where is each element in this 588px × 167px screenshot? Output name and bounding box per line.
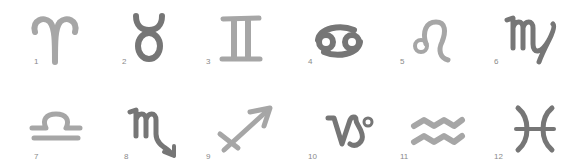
virgo-icon (505, 14, 563, 66)
sign-number-1: 1 (34, 57, 38, 66)
cancer-icon (312, 22, 366, 64)
leo-icon (412, 18, 454, 64)
taurus-icon (132, 12, 166, 64)
sign-number-8: 8 (124, 152, 128, 161)
libra-icon (30, 110, 82, 142)
sign-number-9: 9 (206, 152, 210, 161)
sign-number-7: 7 (34, 152, 38, 161)
sign-number-11: 11 (400, 152, 408, 161)
scorpio-icon (128, 106, 180, 158)
sign-number-4: 4 (308, 57, 312, 66)
sign-number-3: 3 (206, 57, 210, 66)
sign-number-6: 6 (494, 57, 498, 66)
pisces-icon (512, 104, 558, 154)
capricorn-icon (326, 114, 374, 150)
sagittarius-icon (216, 104, 274, 156)
gemini-icon (220, 16, 262, 62)
sign-number-12: 12 (494, 152, 503, 161)
sign-number-5: 5 (400, 57, 404, 66)
sign-number-10: 10 (308, 152, 317, 161)
aquarius-icon (410, 114, 466, 148)
sign-number-2: 2 (122, 57, 126, 66)
